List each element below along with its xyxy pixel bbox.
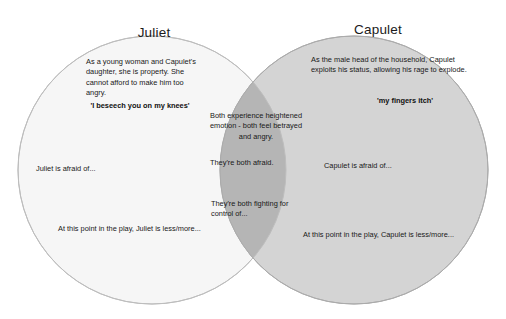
venn-label-juliet: Juliet	[104, 25, 204, 40]
juliet-description-text: As a young woman and Capulet's daughter,…	[86, 57, 204, 99]
shared-control-text: They're both fighting for control of...	[211, 199, 305, 220]
shared-emotion-text: Both experience heightened emotion - bot…	[206, 111, 306, 142]
juliet-quote-text: 'I beseech you on my knees'	[86, 101, 194, 111]
shared-afraid-text: They're both afraid.	[210, 158, 306, 168]
capulet-point-in-play-prompt: At this point in the play, Capulet is le…	[303, 230, 463, 240]
venn-diagram-canvas: Juliet Capulet As a young woman and Capu…	[0, 0, 506, 319]
juliet-afraid-prompt: Juliet is afraid of...	[36, 164, 176, 174]
juliet-point-in-play-prompt: At this point in the play, Juliet is les…	[58, 224, 208, 234]
capulet-quote-text: 'my fingers itch'	[352, 96, 458, 106]
capulet-description-text: As the male head of the household, Capul…	[311, 55, 479, 76]
venn-label-capulet: Capulet	[323, 22, 433, 37]
capulet-afraid-prompt: Capulet is afraid of...	[324, 161, 474, 171]
venn-text-layer: Juliet Capulet As a young woman and Capu…	[0, 0, 506, 319]
